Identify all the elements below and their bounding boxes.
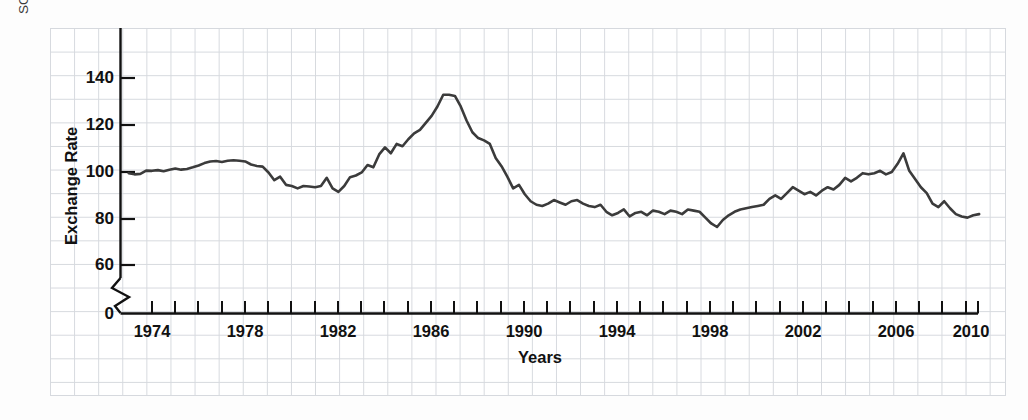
x-axis-ticks [152, 301, 978, 314]
y-axis-ticks [121, 78, 136, 265]
chart-figure: SOURCE: Federal Reserve System. 140 120 … [0, 0, 1028, 420]
plot-svg [0, 0, 1028, 420]
y-axis-break-zigzag [112, 278, 129, 313]
data-line-exchange-rate [129, 95, 979, 227]
